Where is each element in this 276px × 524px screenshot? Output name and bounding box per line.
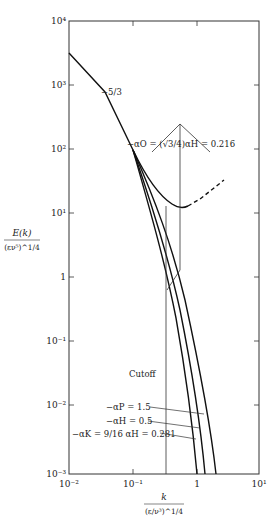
x-tick-1e1: 10¹ <box>251 479 266 489</box>
x-tick-1e-1: 10⁻¹ <box>123 479 143 489</box>
svg-text:E(k): E(k) <box>11 228 32 238</box>
x-axis-label: k (ε/ν³)^1/4 <box>144 492 184 516</box>
y-tick-1e-3: 10⁻³ <box>46 469 66 479</box>
y-tick-1e1: 10¹ <box>51 208 66 218</box>
y-tick-1e3: 10³ <box>51 80 66 90</box>
cutoff-label: Cutoff <box>129 369 157 379</box>
x-tick-1e-2: 10⁻² <box>59 479 79 489</box>
y-tick-1: 1 <box>60 272 66 282</box>
curve-alpha-o-dashed <box>188 180 224 206</box>
svg-text:(εν⁵)^1/4: (εν⁵)^1/4 <box>4 243 40 252</box>
alpha-o-label: −αO = (√3/4)αH = 0.216 <box>127 139 235 149</box>
y-tick-labels: 10⁴ 10³ 10² 10¹ 1 10⁻¹ 10⁻² 10⁻³ <box>46 16 66 479</box>
x-tick-1: 1 <box>194 479 200 489</box>
y-tick-1e-2: 10⁻² <box>46 400 66 410</box>
svg-text:(ε/ν³)^1/4: (ε/ν³)^1/4 <box>145 507 183 516</box>
alpha-h-label: −αH = 0.5 <box>106 416 152 426</box>
y-tick-1e4: 10⁴ <box>51 16 66 26</box>
curve-alpha-o <box>69 53 188 207</box>
y-tick-1e2: 10² <box>51 144 66 154</box>
y-axis-label: E(k) (εν⁵)^1/4 <box>4 228 40 252</box>
alpha-p-label: −αP = 1.5 <box>106 402 151 412</box>
x-tick-labels: 10⁻² 10⁻¹ 1 10¹ <box>59 479 266 489</box>
spectrum-chart: 10⁴ 10³ 10² 10¹ 1 10⁻¹ 10⁻² 10⁻³ 10⁻² 10… <box>0 0 276 524</box>
slope-label: −5/3 <box>101 87 122 97</box>
y-tick-1e-1: 10⁻¹ <box>46 336 66 346</box>
alpha-k-label: −αK = 9/16 αH = 0.281 <box>72 429 176 439</box>
svg-text:k: k <box>161 492 166 502</box>
